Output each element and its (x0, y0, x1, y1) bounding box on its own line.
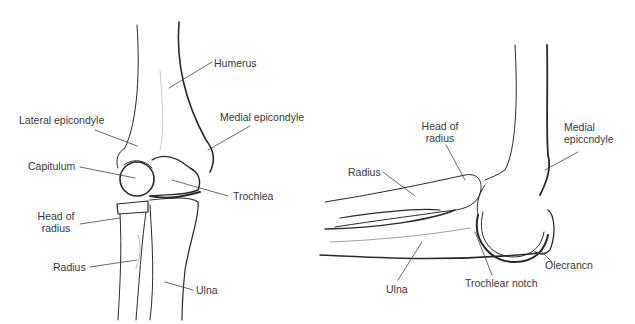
label-line-1: Head of (35, 210, 77, 222)
label-humerus: Humerus (214, 57, 257, 69)
label-line-1: Head of (418, 120, 462, 132)
label-ulna-lateral: Ulna (386, 283, 408, 295)
label-line-1: Medial (564, 121, 614, 133)
label-head-of-radius-lateral: Head of radius (418, 120, 462, 144)
label-head-of-radius-anterior: Head of radius (35, 210, 77, 234)
label-trochlea: Trochlea (233, 190, 273, 202)
label-medial-epicondyle-anterior: Medial epicondyle (220, 111, 304, 123)
label-line-2: epiccndyle (564, 133, 614, 145)
label-medial-epicondyle-lateral: Medial epiccndyle (564, 121, 614, 145)
label-ulna-anterior: Ulna (196, 284, 218, 296)
anterior-view-drawing (117, 22, 214, 320)
label-line-2: radius (35, 222, 77, 234)
label-olecranon: Olecrancn (545, 259, 593, 271)
lateral-view-drawing (320, 45, 554, 262)
label-radius-lateral: Radius (348, 166, 381, 178)
label-lateral-epicondyle: Lateral epicondyle (19, 114, 104, 126)
elbow-illustration (0, 0, 635, 324)
label-capitulum: Capitulum (28, 160, 75, 172)
label-trochlear-notch: Trochlear notch (465, 277, 538, 289)
label-radius-anterior: Radius (53, 261, 86, 273)
label-line-2: radius (418, 132, 462, 144)
